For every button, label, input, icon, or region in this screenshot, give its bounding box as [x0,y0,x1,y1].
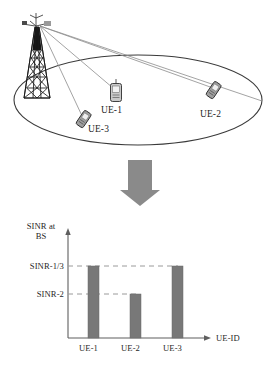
down-arrow [120,160,160,206]
x-tick-label-ue-1: UE-1 [79,343,98,353]
cell-coverage-diagram [14,13,262,145]
bar-ue-2 [130,294,141,338]
x-tick-label-ue-2: UE-2 [121,343,140,353]
ue-1-label: UE-1 [101,105,122,115]
y-axis-arrowhead [65,228,70,235]
base-station-tower [22,13,51,98]
x-axis-arrowhead [204,335,211,340]
link-bs-horizon [40,26,262,101]
handset-ue-1 [111,79,122,102]
antenna-panel-left [22,21,27,25]
sinr-bar-chart [65,228,211,341]
tower-upper-solid [33,27,42,50]
figure-root: UE-1 UE-2 UE-3 SINR at BS SINR-1/3 SINR-… [0,0,269,375]
y-tick-label-sinr-1-3: SINR-1/3 [6,261,64,271]
y-tick-label-sinr-2: SINR-2 [6,289,64,299]
radio-link-lines [40,26,262,118]
ue-3-label: UE-3 [88,124,109,134]
chart-x-axis-title: UE-ID [216,333,240,343]
bar-ue-1 [88,266,99,338]
handset-ue-2 [206,81,222,99]
y-axis-title-line-2: BS [18,232,64,242]
chart-y-axis-title: SINR at BS [18,222,64,241]
figure-graphics [0,0,269,375]
x-tick-label-ue-3: UE-3 [163,343,182,353]
link-bs-ue2 [40,26,213,88]
bar-ue-3 [172,266,183,338]
ue-2-label: UE-2 [200,109,221,119]
cell-coverage-ellipse [14,55,262,145]
antenna-panel-right [44,21,51,26]
